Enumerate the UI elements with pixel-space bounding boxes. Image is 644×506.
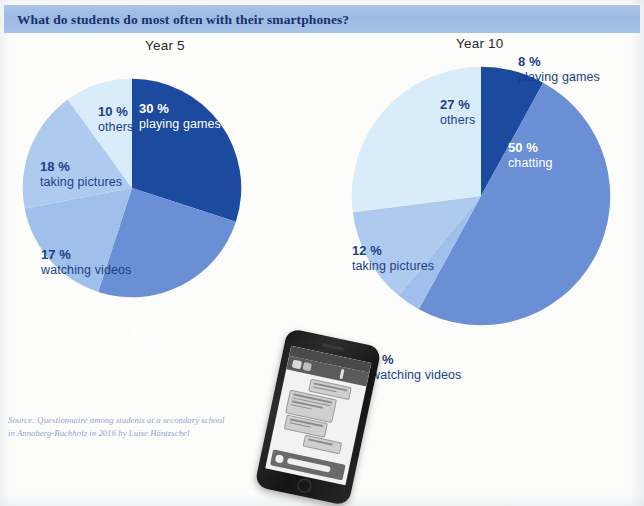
label-year10-playing-games-desc: playing games	[518, 70, 600, 86]
smartphone-screen	[265, 346, 371, 485]
label-year10-others: 27 % others	[440, 97, 475, 129]
label-year10-others-desc: others	[440, 113, 475, 129]
label-year5-playing-games-pct: 30 %	[139, 101, 221, 117]
pie-chart-year10	[345, 60, 617, 332]
label-year10-taking-pictures: 12 % taking pictures	[352, 243, 434, 275]
contact-avatar-secondary-icon	[302, 362, 311, 371]
smartphone-body	[254, 328, 382, 506]
pie-year10-svg	[345, 60, 617, 332]
label-year5-chatting: 25 % chatting	[131, 325, 176, 357]
label-year10-playing-games: 8 % playing games	[518, 54, 600, 86]
attachment-icon	[339, 369, 344, 379]
label-year5-others-pct: 10 %	[98, 104, 133, 120]
contact-avatar-icon	[292, 360, 302, 370]
label-year10-chatting-desc: chatting	[508, 156, 553, 172]
label-year5-taking-pictures-pct: 18 %	[40, 159, 122, 175]
label-year10-chatting-pct: 50 %	[508, 140, 553, 156]
smartphone-speaker	[322, 343, 344, 350]
label-year5-chatting-pct: 25 %	[131, 325, 176, 341]
label-year10-taking-pictures-desc: taking pictures	[352, 259, 434, 275]
label-year5-taking-pictures-desc: taking pictures	[40, 175, 122, 191]
label-year5-others: 10 % others	[98, 104, 133, 136]
smartphone-photo	[252, 328, 402, 506]
label-year5-watching-videos: 17 % watching videos	[41, 247, 131, 279]
page-title: What do students do most often with thei…	[17, 12, 349, 28]
label-year10-playing-games-pct: 8 %	[518, 54, 600, 70]
label-year5-chatting-desc: chatting	[131, 341, 176, 357]
message-input-field[interactable]	[287, 458, 331, 473]
chart-title-year5: Year 5	[145, 38, 185, 53]
source-line-1: Source: Questionnaire among students at …	[8, 414, 278, 427]
header-banner: What do students do most often with thei…	[4, 5, 640, 33]
label-year10-chatting: 50 % chatting	[508, 140, 553, 172]
chart-title-year10: Year 10	[456, 36, 503, 51]
label-year5-watching-videos-pct: 17 %	[41, 247, 131, 263]
source-line-2: in Annaberg-Buchholz in 2016 by Luise Hä…	[8, 427, 278, 440]
camera-icon	[275, 454, 284, 463]
label-year10-taking-pictures-pct: 12 %	[352, 243, 434, 259]
label-year5-playing-games: 30 % playing games	[139, 101, 221, 133]
source-note: Source: Questionnaire among students at …	[8, 414, 278, 440]
message-input[interactable]	[270, 449, 346, 480]
label-year5-playing-games-desc: playing games	[139, 117, 221, 133]
slice-year10-others	[352, 67, 481, 212]
chat-bubble	[303, 435, 343, 455]
label-year5-taking-pictures: 18 % taking pictures	[40, 159, 122, 191]
label-year10-others-pct: 27 %	[440, 97, 475, 113]
label-year5-watching-videos-desc: watching videos	[41, 263, 131, 279]
label-year5-others-desc: others	[98, 120, 133, 136]
home-button	[296, 477, 313, 494]
